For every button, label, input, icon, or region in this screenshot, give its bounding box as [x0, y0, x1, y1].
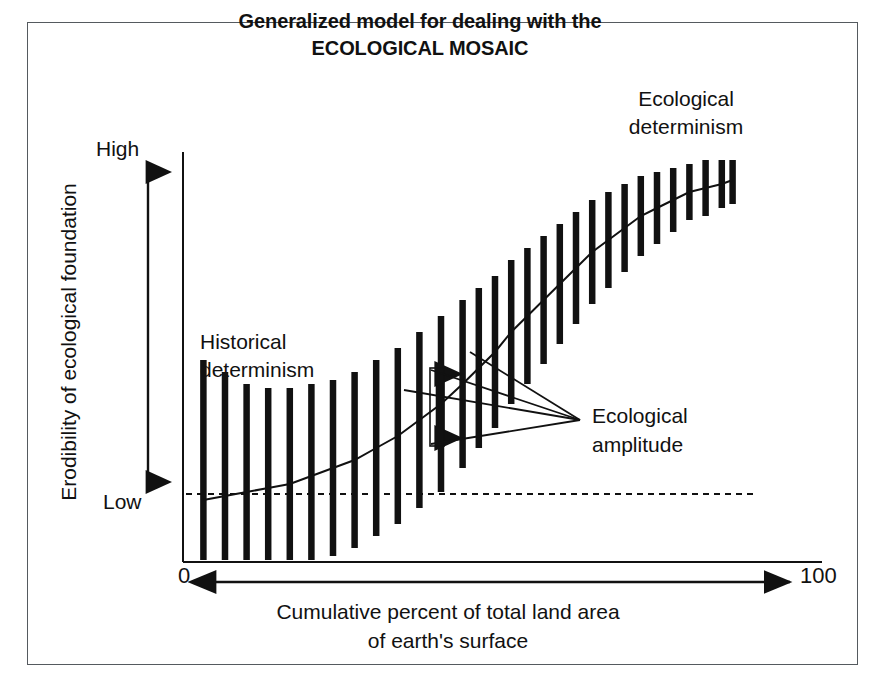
plot-area: [0, 0, 876, 693]
sigmoid-trend-line: [203, 180, 732, 500]
axis-lines: [183, 152, 822, 562]
error-bar-group: [203, 160, 732, 560]
